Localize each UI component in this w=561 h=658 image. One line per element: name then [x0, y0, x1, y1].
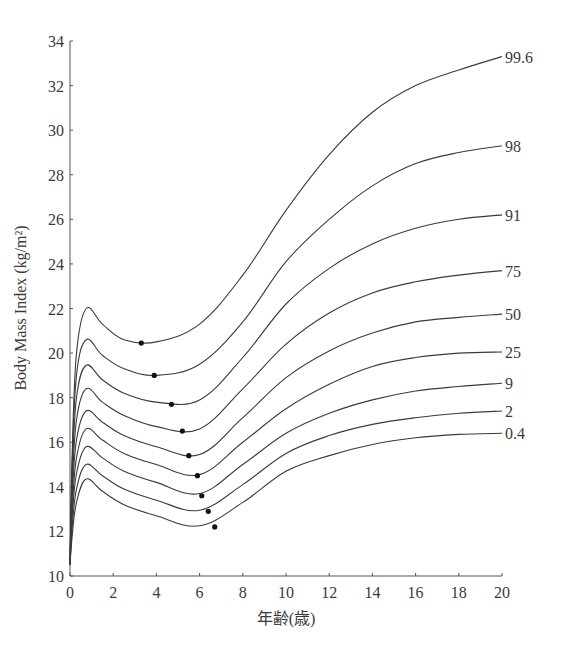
rebound-dot — [186, 453, 191, 458]
y-tick-label: 26 — [48, 211, 64, 228]
rebound-dot — [199, 493, 204, 498]
rebound-dot — [206, 509, 211, 514]
x-tick-label: 14 — [364, 584, 380, 601]
x-tick-label: 6 — [196, 584, 204, 601]
percentile-label: 25 — [505, 344, 521, 361]
rebound-dot — [180, 429, 185, 434]
percentile-label: 0.4 — [505, 425, 525, 442]
x-tick-label: 0 — [66, 584, 74, 601]
percentile-labels: 99.69891755025920.4 — [505, 49, 533, 443]
y-tick-label: 20 — [48, 345, 64, 362]
y-tick-label: 24 — [48, 256, 64, 273]
percentile-curves — [70, 57, 502, 565]
percentile-curve-25 — [70, 352, 502, 565]
rebound-dot — [169, 402, 174, 407]
x-tick-label: 8 — [239, 584, 247, 601]
y-tick-label: 10 — [48, 568, 64, 585]
percentile-curve-75 — [70, 271, 502, 565]
y-tick-label: 30 — [48, 122, 64, 139]
x-tick-label: 10 — [278, 584, 294, 601]
rebound-dot — [212, 524, 217, 529]
adiposity-rebound-points — [139, 340, 218, 529]
percentile-curve-99.6 — [70, 57, 502, 565]
percentile-curve-50 — [70, 314, 502, 565]
y-tick-label: 18 — [48, 390, 64, 407]
x-axis-title: 年齢(歳) — [257, 610, 316, 628]
y-tick-label: 14 — [48, 479, 64, 496]
y-tick-label: 32 — [48, 78, 64, 95]
bmi-percentile-chart: 0246810121416182010121416182022242628303… — [0, 0, 561, 658]
x-tick-label: 4 — [152, 584, 160, 601]
percentile-curve-91 — [70, 215, 502, 565]
percentile-label: 75 — [505, 263, 521, 280]
percentile-label: 91 — [505, 207, 521, 224]
y-tick-label: 12 — [48, 523, 64, 540]
percentile-curve-2 — [70, 411, 502, 565]
percentile-label: 98 — [505, 138, 521, 155]
rebound-dot — [139, 340, 144, 345]
percentile-label: 2 — [505, 403, 513, 420]
percentile-label: 99.6 — [505, 49, 533, 66]
y-tick-label: 34 — [48, 33, 64, 50]
y-tick-label: 28 — [48, 167, 64, 184]
x-tick-label: 20 — [494, 584, 510, 601]
y-tick-label: 16 — [48, 434, 64, 451]
chart-axes: 0246810121416182010121416182022242628303… — [48, 33, 510, 601]
percentile-label: 9 — [505, 375, 513, 392]
rebound-dot — [152, 373, 157, 378]
y-tick-label: 22 — [48, 301, 64, 318]
x-tick-label: 12 — [321, 584, 337, 601]
x-tick-label: 2 — [109, 584, 117, 601]
x-tick-label: 18 — [451, 584, 467, 601]
percentile-curve-9 — [70, 383, 502, 565]
y-axis-title: Body Mass Index (kg/m²) — [12, 225, 30, 390]
rebound-dot — [195, 473, 200, 478]
percentile-label: 50 — [505, 306, 521, 323]
x-tick-label: 16 — [408, 584, 424, 601]
